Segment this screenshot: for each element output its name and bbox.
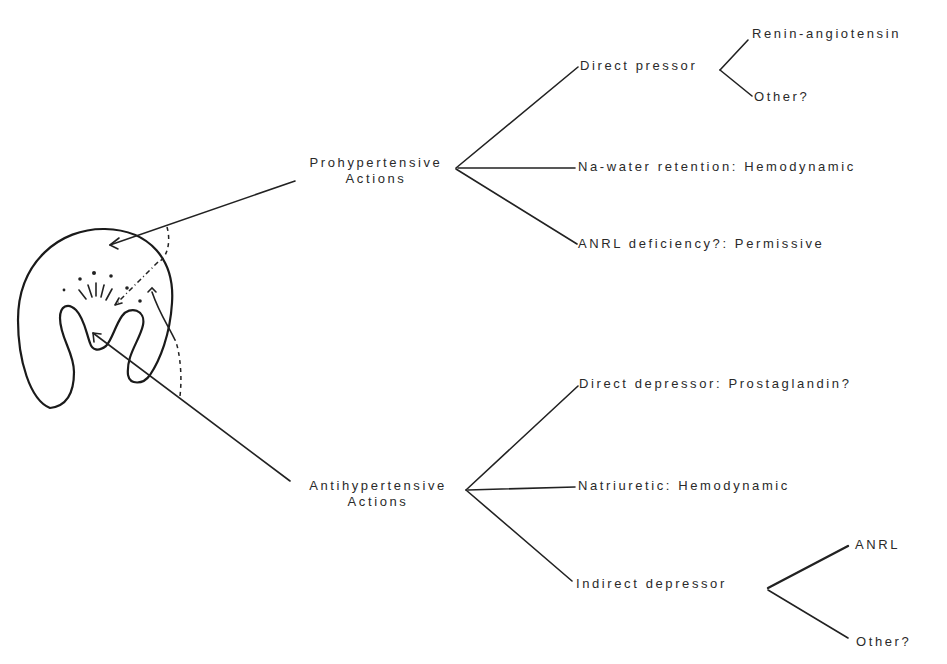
anrl-deficiency-label: ANRL deficiency?: Permissive <box>578 236 824 252</box>
prohypertensive-subtitle: Actions <box>296 171 456 187</box>
dashdot-arrow-inner <box>115 262 158 305</box>
natriuretic-label: Natriuretic: Hemodynamic <box>578 478 790 494</box>
depressor-other-label: Other? <box>856 634 911 650</box>
indirect-depressor-label: Indirect depressor <box>576 576 727 592</box>
direct-pressor-branches <box>720 40 752 96</box>
pressor-other-label: Other? <box>754 89 809 105</box>
prohypertensive-branches <box>456 67 578 244</box>
antihypertensive-title: Antihypertensive <box>290 478 466 494</box>
dashed-arc-lower <box>175 340 181 396</box>
direct-depressor-label: Direct depressor: Prostaglandin? <box>579 376 852 392</box>
prohypertensive-node: Prohypertensive Actions <box>296 155 456 187</box>
direct-pressor-label: Direct pressor <box>580 58 697 74</box>
prohypertensive-arrow <box>110 181 295 245</box>
indirect-depressor-branches <box>768 546 848 638</box>
papilla-marks <box>63 271 142 303</box>
anrl-label: ANRL <box>855 537 900 553</box>
prohypertensive-title: Prohypertensive <box>296 155 456 171</box>
antihypertensive-node: Antihypertensive Actions <box>290 478 466 510</box>
kidney-hypertension-diagram: Prohypertensive Actions Direct pressor R… <box>0 0 947 664</box>
antihypertensive-branches <box>466 386 578 581</box>
antihypertensive-arrow <box>93 333 290 481</box>
na-water-retention-label: Na-water retention: Hemodynamic <box>578 159 856 175</box>
antihypertensive-subtitle: Actions <box>290 494 466 510</box>
dashed-arc-upper <box>158 227 169 262</box>
renin-angiotensin-label: Renin-angiotensin <box>752 26 901 42</box>
kidney-outline <box>18 229 172 408</box>
